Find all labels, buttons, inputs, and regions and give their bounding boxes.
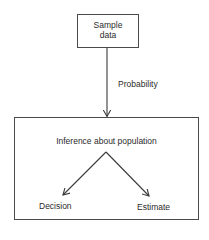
estimate-label: Estimate bbox=[137, 202, 170, 212]
decision-label: Decision bbox=[39, 201, 72, 211]
decision-arrow bbox=[63, 152, 106, 195]
sample-data-line2: data bbox=[77, 30, 139, 40]
probability-label: Probability bbox=[118, 79, 158, 89]
sample-data-line1: Sample bbox=[77, 20, 139, 30]
estimate-arrow bbox=[106, 152, 149, 196]
inference-heading: Inference about population bbox=[14, 136, 199, 146]
sample-data-label: Sample data bbox=[77, 20, 139, 40]
